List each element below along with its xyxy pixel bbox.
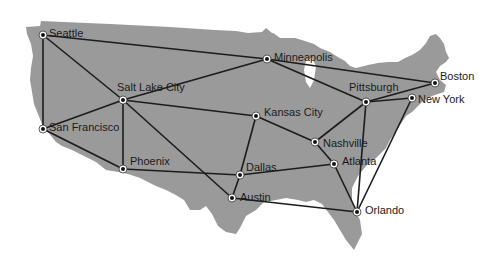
label-pittsburgh: Pittsburgh — [349, 81, 399, 93]
label-dallas: Dallas — [246, 161, 277, 173]
label-phoenix: Phoenix — [130, 155, 170, 167]
label-orlando: Orlando — [365, 204, 404, 216]
node-dot-boston — [433, 81, 437, 85]
label-kansas-city: Kansas City — [264, 106, 323, 118]
node-dot-kansas-city — [254, 114, 258, 118]
node-dot-new-york — [410, 96, 414, 100]
node-dot-orlando — [355, 210, 359, 214]
label-austin: Austin — [240, 191, 271, 203]
label-minneapolis: Minneapolis — [274, 51, 333, 63]
label-boston: Boston — [440, 70, 474, 82]
node-dot-dallas — [238, 173, 242, 177]
node-dot-minneapolis — [265, 57, 269, 61]
label-san-francisco: San Francisco — [49, 121, 119, 133]
node-dot-seattle — [41, 33, 45, 37]
node-dot-nashville — [313, 140, 317, 144]
label-salt-lake-city: Salt Lake City — [117, 81, 185, 93]
node-dot-atlanta — [332, 162, 336, 166]
node-dot-san-francisco — [41, 127, 45, 131]
node-dot-austin — [230, 196, 234, 200]
label-new-york: New York — [418, 93, 464, 105]
label-seattle: Seattle — [49, 27, 83, 39]
label-atlanta: Atlanta — [342, 155, 376, 167]
node-dot-phoenix — [121, 167, 125, 171]
label-nashville: Nashville — [323, 137, 368, 149]
node-dot-salt-lake-city — [121, 98, 125, 102]
node-dot-pittsburgh — [364, 100, 368, 104]
